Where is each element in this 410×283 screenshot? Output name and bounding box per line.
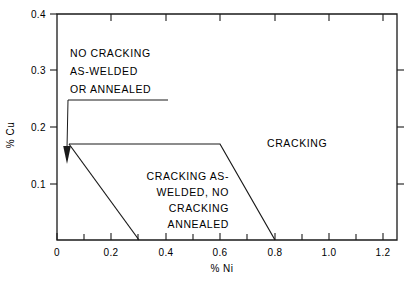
x-axis-title: % Ni	[210, 263, 233, 274]
cracking-as-welded-line-4: ANNEALED	[168, 218, 229, 230]
x-tick-label: 0.4	[158, 247, 173, 258]
y-tick-labels: 0.4 0.3 0.2 0.1	[31, 9, 46, 190]
callout-arrow-icon	[63, 146, 71, 164]
phase-diagram-chart: 0.4 0.3 0.2 0.1 0 0.2 0.4 0.6 0.8 1.0 1.…	[0, 0, 410, 283]
no-cracking-line-3: OR ANNEALED	[70, 83, 151, 95]
y-tick-label: 0.3	[31, 65, 46, 76]
x-tick-label: 0.6	[212, 247, 227, 258]
x-tick-label: 1.2	[375, 247, 390, 258]
callout-leader-line	[67, 100, 168, 148]
cracking-as-welded-line-2: WELDED, NO	[156, 186, 229, 198]
x-tick-label: 0.2	[103, 247, 118, 258]
x-axis-ticks	[57, 233, 383, 240]
plot-canvas: 0.4 0.3 0.2 0.1 0 0.2 0.4 0.6 0.8 1.0 1.…	[0, 0, 410, 283]
no-cracking-line-2: AS-WELDED	[70, 65, 138, 77]
y-tick-label: 0.1	[31, 179, 46, 190]
right-axis-ticks	[397, 70, 404, 184]
x-tick-labels: 0 0.2 0.4 0.6 0.8 1.0 1.2	[54, 247, 391, 258]
cracking-label: CRACKING	[267, 137, 327, 149]
no-cracking-line-1: NO CRACKING	[70, 47, 151, 59]
no-cracking-callout	[63, 100, 168, 164]
no-cracking-label: NO CRACKING AS-WELDED OR ANNEALED	[70, 47, 151, 95]
y-axis-ticks	[50, 14, 57, 184]
y-tick-label: 0.4	[31, 9, 46, 20]
y-tick-label: 0.2	[31, 122, 46, 133]
x-tick-label: 0.8	[267, 247, 282, 258]
cracking-as-welded-line-1: CRACKING AS-	[147, 170, 229, 182]
cracking-as-welded-line-3: CRACKING	[169, 202, 229, 214]
x-tick-label: 1.0	[321, 247, 336, 258]
x-tick-label: 0	[54, 247, 60, 258]
y-axis-title: % Cu	[5, 122, 16, 148]
cracking-as-welded-label: CRACKING AS- WELDED, NO CRACKING ANNEALE…	[147, 170, 229, 230]
annealed-boundary-line	[69, 144, 139, 240]
top-axis-ticks	[111, 14, 383, 21]
